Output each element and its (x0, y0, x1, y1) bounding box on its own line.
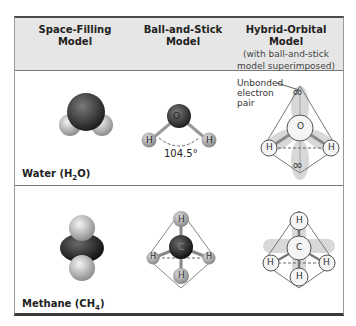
row-label-methane: Methane (CH4) (22, 298, 105, 312)
lone-pair-bottom: oo (293, 161, 301, 170)
header-subtext: (with ball-and-stick (243, 49, 329, 59)
methane-space-filling-model (57, 206, 107, 286)
atom-label-h: H (328, 142, 335, 152)
molecular-models-table: Space-Filling Model Ball-and-Stick Model… (14, 16, 344, 316)
water-ball-and-stick-model (129, 98, 229, 173)
header-hybrid-orbital: Hybrid-Orbital Model (with ball-and-stic… (227, 24, 345, 72)
atom-label-o: O (173, 111, 180, 121)
header-ball-and-stick: Ball-and-Stick Model (133, 24, 233, 48)
label-text: Water (H (22, 168, 72, 179)
atom-label-h: H (323, 257, 330, 267)
annotation-text: electron (237, 88, 274, 98)
atom-label-h: H (296, 215, 303, 225)
atom-label-c: C (178, 242, 184, 252)
atom-label-h: H (266, 142, 273, 152)
header-text: Ball-and-Stick (144, 24, 223, 35)
bond-angle-label: 104.5° (164, 148, 198, 159)
atom-label-h: H (206, 135, 213, 145)
row-separator (15, 185, 343, 186)
label-text: Methane (CH (22, 298, 95, 309)
atom-label-o: O (297, 121, 304, 131)
atom-label-h: H (206, 252, 212, 261)
annotation-leader-line (277, 78, 307, 94)
atom-label-h: H (296, 271, 303, 281)
row-label-water: Water (H2O) (22, 168, 90, 182)
table-header: Space-Filling Model Ball-and-Stick Model… (15, 18, 343, 71)
atom-label-c: C (296, 242, 302, 252)
label-text: ) (100, 298, 105, 309)
atom-label-h: H (150, 252, 156, 261)
header-text: Model (166, 36, 200, 47)
annotation-text: pair (237, 98, 254, 108)
atom-label-h: H (146, 135, 153, 145)
atom-label-h: H (178, 270, 185, 280)
header-text: Hybrid-Orbital Model (246, 24, 327, 47)
label-text: O) (77, 168, 90, 179)
header-subtext: model superimposed) (237, 61, 335, 71)
atom-label-h: H (267, 257, 274, 267)
header-text: Space-Filling (39, 24, 112, 35)
header-space-filling: Space-Filling Model (25, 24, 125, 48)
atom-label-h: H (178, 214, 185, 224)
water-space-filling-model (57, 90, 117, 145)
header-text: Model (58, 36, 92, 47)
